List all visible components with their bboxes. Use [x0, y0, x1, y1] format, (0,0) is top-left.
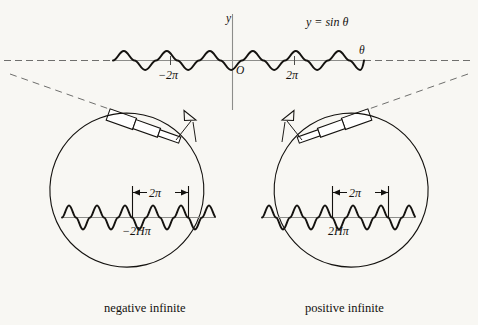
telescope-left — [106, 109, 196, 146]
tick-label-minus-2pi: −2π — [158, 68, 179, 82]
telescope-left-segment-2 — [133, 120, 161, 138]
lens-left-arrowhead-end — [181, 190, 188, 196]
y-axis-label: y — [225, 12, 232, 25]
telescope-left-segment-1 — [106, 109, 136, 130]
caption-negative-infinite: negative infinite — [104, 301, 186, 315]
caption-positive-infinite: positive infinite — [305, 301, 384, 315]
telescope-right-cone-b — [282, 122, 285, 142]
lens-right-center-tick-label: 2Hπ — [328, 224, 350, 238]
sight-lines — [10, 74, 468, 110]
lens-right-arrowhead-end — [381, 190, 388, 196]
equation-label: y = sin θ — [305, 15, 348, 29]
telescope-right-arrowhead — [282, 111, 294, 121]
sight-line-right — [366, 74, 468, 110]
lens-left-outline — [50, 113, 204, 267]
telescope-right-segment-2 — [317, 120, 345, 138]
tick-label-2pi: 2π — [286, 68, 299, 82]
telescope-right-segment-1 — [341, 109, 371, 130]
lens-left-arrowhead-start — [133, 190, 140, 196]
lens-left-center-tick-label: −2Hπ — [122, 224, 152, 238]
lens-right-period-label: 2π — [349, 186, 362, 200]
sight-line-left — [10, 74, 112, 110]
lens-right-arrowhead-start — [333, 190, 340, 196]
telescope-right — [282, 109, 372, 146]
figure-root: y θ y = sin θ −2π O 2π — [0, 0, 478, 325]
figure-canvas: y θ y = sin θ −2π O 2π — [0, 0, 478, 325]
lens-left-period-label: 2π — [149, 186, 162, 200]
origin-label: O — [236, 64, 245, 76]
lens-right: 2π 2Hπ — [262, 113, 428, 267]
theta-axis-label: θ — [359, 44, 365, 56]
lens-left: 2π −2Hπ — [50, 113, 216, 267]
telescope-left-arrowhead — [184, 111, 196, 121]
telescope-left-cone-b — [193, 122, 196, 142]
main-graph: y θ y = sin θ −2π O 2π — [4, 12, 474, 110]
